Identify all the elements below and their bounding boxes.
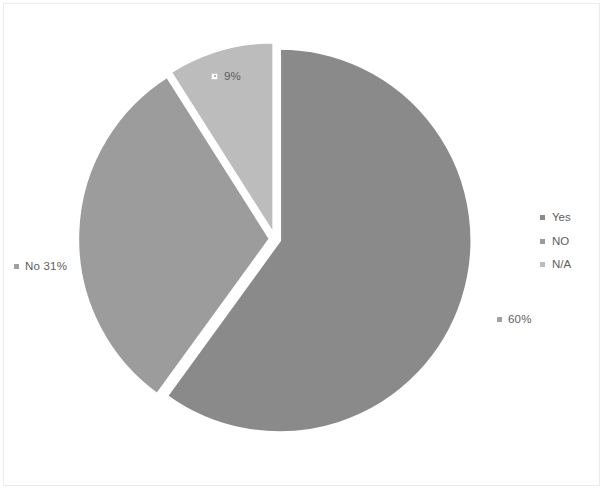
legend-swatch-icon <box>540 262 545 267</box>
data-label-marker-icon <box>14 264 19 269</box>
legend-swatch-icon <box>540 239 545 244</box>
legend-item-na[interactable]: N/A <box>540 259 571 271</box>
legend-label-yes: Yes <box>552 212 571 224</box>
legend-item-yes[interactable]: Yes <box>540 212 571 224</box>
data-label-no: No 31% <box>14 260 67 272</box>
legend-item-no[interactable]: NO <box>540 236 571 248</box>
data-label-na: 9% <box>211 70 241 82</box>
chart-legend: Yes NO N/A <box>540 212 571 271</box>
data-label-na-text: 9% <box>224 70 241 82</box>
legend-swatch-icon <box>540 215 545 220</box>
chart-canvas: 9% No 31% 60% Yes NO N/A <box>0 0 604 490</box>
legend-label-no: NO <box>552 236 569 248</box>
data-label-yes-text: 60% <box>508 313 532 325</box>
legend-label-na: N/A <box>552 259 571 271</box>
data-label-marker-icon <box>497 317 502 322</box>
data-label-no-text: No 31% <box>25 260 67 272</box>
pie-chart-svg <box>0 0 604 490</box>
pie-chart-plot-area: 9% No 31% 60% Yes NO N/A <box>0 0 604 490</box>
data-label-marker-icon <box>211 73 218 80</box>
data-label-yes: 60% <box>497 313 532 325</box>
